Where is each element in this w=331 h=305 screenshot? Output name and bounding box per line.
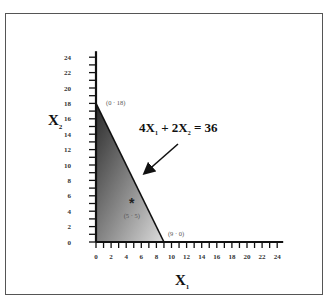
x-tick-label: 16 bbox=[213, 253, 221, 261]
x-tick-label: 14 bbox=[198, 253, 206, 261]
x-axis-title: X1 bbox=[175, 272, 190, 291]
x-tick-label: 0 bbox=[94, 253, 98, 261]
y-tick-label: 4 bbox=[68, 208, 72, 216]
x-tick-label: 8 bbox=[155, 253, 159, 261]
y-tick-label: 10 bbox=[64, 162, 72, 170]
annotation-arrow bbox=[145, 144, 178, 173]
y-tick-label: 20 bbox=[64, 85, 72, 93]
point-label: (0 · 18) bbox=[106, 99, 126, 107]
x-tick-label: 12 bbox=[183, 253, 191, 261]
point-marker-star: * bbox=[129, 195, 135, 211]
x-tick-label: 18 bbox=[228, 253, 236, 261]
constraint-equation-label: 4X1 + 2X2 = 36 bbox=[139, 120, 218, 136]
point-label: (5 · 5) bbox=[124, 212, 140, 220]
y-tick-label: 0 bbox=[68, 239, 72, 247]
y-tick-label: 6 bbox=[68, 192, 72, 200]
x-tick-label: 4 bbox=[124, 253, 128, 261]
labels: 0246810121416182022240246810121416182022… bbox=[48, 54, 281, 291]
y-tick-label: 22 bbox=[64, 69, 72, 77]
y-tick-label: 12 bbox=[64, 146, 72, 154]
x-tick-label: 10 bbox=[168, 253, 176, 261]
x-tick-label: 2 bbox=[109, 253, 113, 261]
y-tick-label: 16 bbox=[64, 115, 72, 123]
y-tick-label: 8 bbox=[68, 177, 72, 185]
y-tick-label: 18 bbox=[64, 100, 72, 108]
x-tick-label: 24 bbox=[274, 253, 282, 261]
y-tick-label: 2 bbox=[68, 223, 72, 231]
y-tick-label: 24 bbox=[64, 54, 72, 62]
y-axis-title: X2 bbox=[48, 112, 63, 131]
x-tick-label: 22 bbox=[259, 253, 267, 261]
chart-canvas: 0246810121416182022240246810121416182022… bbox=[0, 0, 331, 305]
point-label: (9 · 0) bbox=[168, 230, 184, 238]
x-tick-label: 6 bbox=[140, 253, 144, 261]
x-tick-label: 20 bbox=[244, 253, 252, 261]
y-tick-label: 14 bbox=[64, 131, 72, 139]
